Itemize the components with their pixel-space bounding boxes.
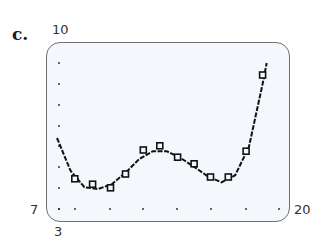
grid-dot — [58, 62, 60, 64]
grid-dot — [58, 104, 60, 106]
data-point-marker — [208, 174, 214, 180]
fitted-curve — [57, 63, 267, 189]
grid-dot — [142, 208, 144, 210]
data-point-marker — [260, 72, 266, 78]
data-point-marker — [108, 185, 114, 191]
grid-dot — [58, 187, 60, 189]
grid-dot — [210, 208, 212, 210]
grid-dot — [176, 208, 178, 210]
data-point-marker — [90, 181, 96, 187]
grid-dot — [74, 208, 76, 210]
grid-dot — [58, 166, 60, 168]
grid-dot — [58, 125, 60, 127]
data-point-marker — [243, 148, 249, 154]
grid-dot — [109, 208, 111, 210]
plot-area — [0, 0, 327, 250]
data-point-marker — [225, 174, 231, 180]
data-point-marker — [157, 143, 163, 149]
data-point-marker — [175, 154, 181, 160]
grid-dot — [58, 83, 60, 85]
data-point-marker — [123, 171, 129, 177]
data-point-marker — [72, 176, 78, 182]
grid-dot — [245, 208, 247, 210]
grid-dot — [278, 208, 280, 210]
data-point-marker — [140, 147, 146, 153]
data-point-marker — [191, 161, 197, 167]
grid-dot — [58, 208, 60, 210]
